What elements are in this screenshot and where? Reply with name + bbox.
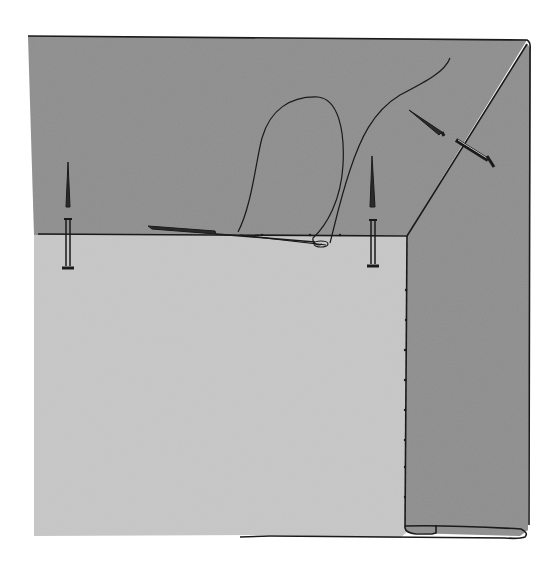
light-fabric-panel (34, 235, 407, 538)
sewing-illustration (0, 0, 559, 568)
